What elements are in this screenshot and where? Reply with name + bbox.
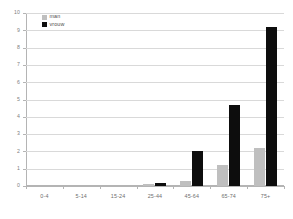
x-axis-tick-mark bbox=[26, 186, 27, 189]
bar-man-45-64 bbox=[180, 181, 191, 186]
bar-group bbox=[137, 13, 174, 186]
legend-swatch-icon bbox=[42, 15, 47, 20]
x-axis-tick-mark bbox=[100, 186, 101, 189]
bar-group bbox=[247, 13, 284, 186]
bar-man-65-74 bbox=[217, 165, 228, 186]
x-axis-tick-mark bbox=[173, 186, 174, 189]
legend-label: vrouw bbox=[50, 22, 65, 27]
x-axis-tick-mark bbox=[137, 186, 138, 189]
bar-man-25-44 bbox=[143, 184, 154, 186]
legend-label: man bbox=[50, 14, 61, 19]
bar-vrouw-75+ bbox=[266, 27, 277, 186]
bar-vrouw-25-44 bbox=[155, 183, 166, 186]
x-axis-tick-mark bbox=[284, 186, 285, 189]
bar-chart: 012345678910 0-45-1415-2425-4445-6465-74… bbox=[0, 0, 293, 219]
chart-legend: manvrouw bbox=[42, 14, 64, 28]
x-axis-tick-mark bbox=[63, 186, 64, 189]
x-axis-tick-mark bbox=[210, 186, 211, 189]
bar-group bbox=[63, 13, 100, 186]
bar-vrouw-45-64 bbox=[192, 151, 203, 186]
bar-man-75+ bbox=[254, 148, 265, 186]
legend-item-man: man bbox=[42, 14, 64, 20]
bar-vrouw-65-74 bbox=[229, 105, 240, 186]
x-axis-tick-label: 75+ bbox=[243, 194, 289, 199]
legend-swatch-icon bbox=[42, 22, 47, 27]
x-axis-tick-mark bbox=[247, 186, 248, 189]
bars-layer bbox=[0, 0, 293, 219]
bar-group bbox=[26, 13, 63, 186]
legend-item-vrouw: vrouw bbox=[42, 22, 64, 28]
bar-group bbox=[210, 13, 247, 186]
bar-group bbox=[100, 13, 137, 186]
bar-group bbox=[173, 13, 210, 186]
